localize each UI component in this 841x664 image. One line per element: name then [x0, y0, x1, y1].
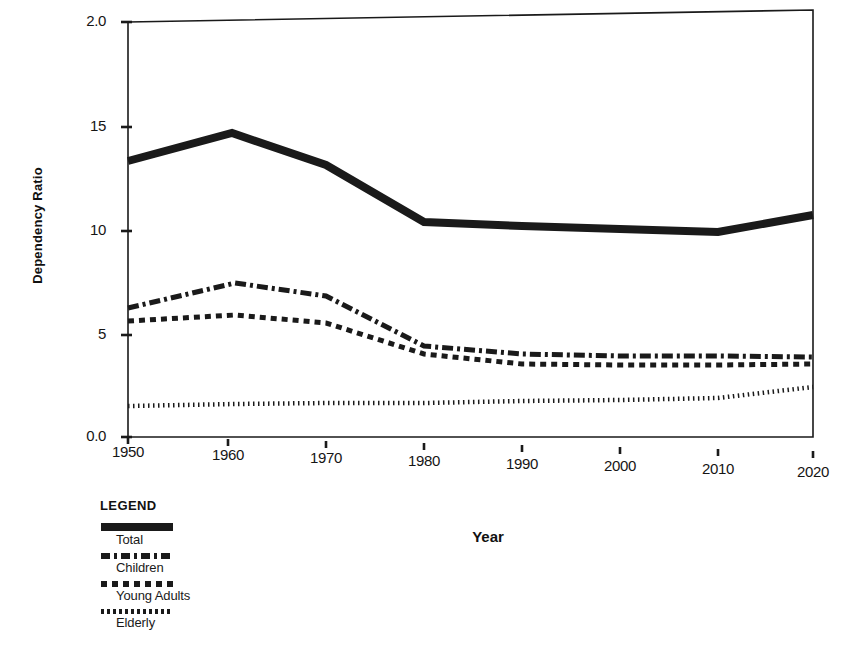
x-axis-title: Year: [398, 528, 578, 545]
legend-swatch-elderly: [101, 609, 173, 614]
legend-item-elderly: Elderly: [100, 609, 310, 630]
legend-label-total: Total: [100, 532, 310, 547]
series-line-children: [128, 283, 813, 357]
chart-figure: Dependency Ratio 2.0 15 10 5 0.0 1950 19…: [0, 0, 841, 664]
legend-label-young-adults: Young Adults: [100, 588, 310, 603]
series-line-elderly: [128, 387, 813, 406]
legend-item-young-adults: Young Adults: [100, 581, 310, 603]
legend-swatch-total: [101, 523, 173, 531]
legend-label-children: Children: [100, 560, 310, 575]
legend-swatch-children: [101, 553, 173, 559]
plot-area: [0, 0, 841, 500]
legend-label-elderly: Elderly: [100, 615, 310, 630]
y-tick-marks: [121, 22, 132, 437]
legend-item-total: Total: [100, 523, 310, 547]
legend-item-children: Children: [100, 553, 310, 575]
legend-swatch-young-adults: [101, 581, 173, 587]
chart-legend: LEGEND Total Children Young Adults Elder…: [100, 498, 310, 636]
legend-title: LEGEND: [100, 498, 310, 513]
x-tick-marks: [128, 437, 813, 458]
series-line-total: [128, 133, 813, 232]
